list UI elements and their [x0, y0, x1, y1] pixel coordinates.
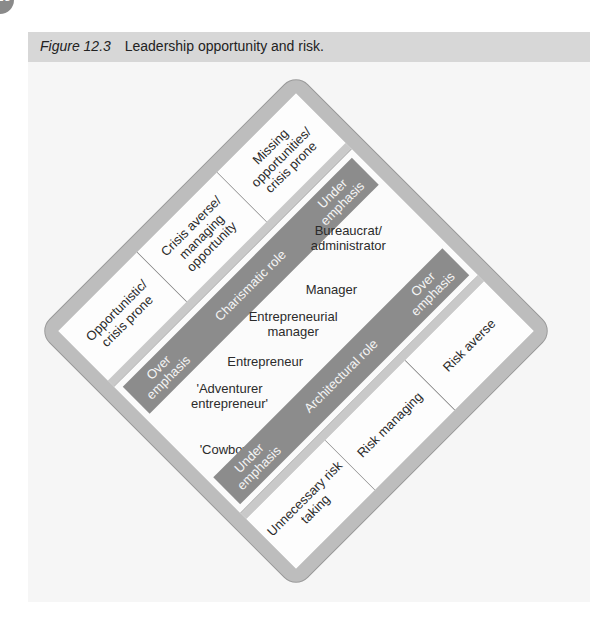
- page-number-badge: 18: [0, 0, 14, 14]
- role-bureaucrat-administrator: Bureaucrat/ administrator: [300, 224, 396, 254]
- role-entrepreneur: Entrepreneur: [227, 355, 303, 370]
- role-manager: Manager: [306, 283, 357, 298]
- page-number: 18: [0, 0, 11, 4]
- figure-caption: Figure 12.3 Leadership opportunity and r…: [40, 38, 324, 54]
- figure-label: Figure 12.3: [40, 38, 111, 54]
- role-adventurer-entrepreneur: 'Adventurer entrepreneur': [181, 382, 277, 412]
- role-entrepreneurial-manager: Entrepreneurial manager: [245, 310, 341, 340]
- figure-title: Leadership opportunity and risk.: [125, 38, 324, 54]
